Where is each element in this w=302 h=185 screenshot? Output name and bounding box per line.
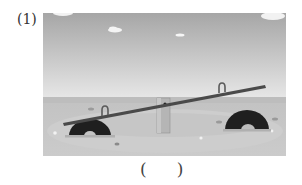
seesaw-illustration: [43, 13, 286, 156]
cloud-icon: [176, 33, 185, 36]
close-paren: ): [177, 159, 184, 179]
answer-blank[interactable]: (): [140, 159, 183, 179]
sky: [43, 13, 286, 97]
question-number: (1): [17, 11, 37, 27]
open-paren: (: [140, 159, 147, 179]
